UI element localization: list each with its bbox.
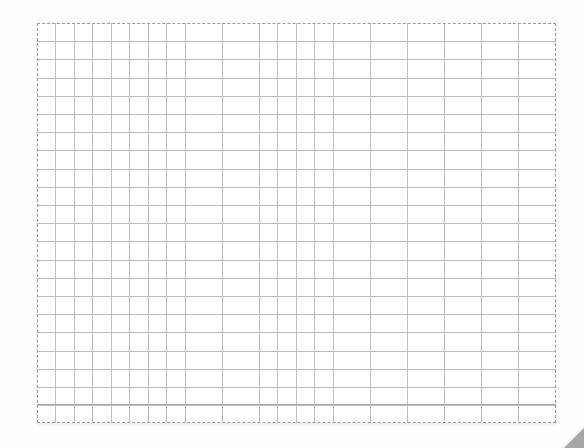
page-curl-icon xyxy=(564,428,584,448)
grid-paper xyxy=(37,23,556,423)
grid-bottom-guide-line xyxy=(37,404,556,405)
graph-paper-page xyxy=(0,0,584,448)
